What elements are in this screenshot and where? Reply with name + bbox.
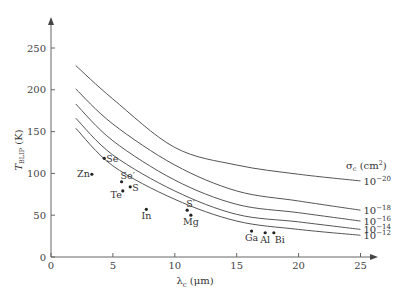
point-label: Al (259, 234, 270, 245)
legend-title-unit: (cm (356, 160, 379, 171)
point-label: Bi (275, 234, 285, 245)
point-label: Zn (77, 168, 90, 179)
y-tick-label: 0 (40, 252, 46, 263)
points: SeZnSe′STeInS′MgGaAlBi (77, 153, 285, 244)
curves (76, 66, 361, 236)
point-label: S (132, 182, 139, 193)
series-line-10^-20 (76, 66, 361, 181)
y-label-unit: (K) (13, 129, 24, 148)
x-tick-label: 25 (354, 260, 367, 271)
series-line-10^-12 (76, 128, 361, 235)
x-tick-label: 20 (292, 260, 305, 271)
point-label: Te (111, 189, 123, 200)
x-tick-label: 5 (110, 260, 116, 271)
y-tick-label: 250 (27, 43, 46, 54)
y-tick-label: 100 (27, 168, 46, 179)
y-axis-label: TBLIP (K) (13, 129, 26, 170)
y-tick-label: 200 (27, 84, 46, 95)
y-tick-label: 150 (27, 126, 46, 137)
series-label-10^-12: 10−12 (364, 229, 392, 241)
x-tick-label: 15 (230, 260, 243, 271)
legend-title: σc (cm2) (346, 159, 387, 173)
series-label-10^-20: 10−20 (364, 175, 392, 187)
point-label: Se′ (121, 170, 135, 181)
x-axis-label: λc (μm) (176, 275, 213, 289)
point-label: Se (106, 153, 119, 164)
x-label-unit: (μm) (187, 275, 214, 286)
x-tick-label: 0 (48, 260, 54, 271)
point-label: In (141, 210, 151, 221)
y-label-sub: BLIP (18, 147, 26, 164)
x-tick-label: 10 (168, 260, 181, 271)
x-axis-arrow (370, 254, 378, 260)
series-line-10^-14 (76, 118, 361, 229)
y-tick-label: 50 (33, 210, 46, 221)
axes (48, 17, 378, 260)
point-Zn (90, 173, 93, 176)
point-label: Ga (245, 232, 259, 243)
x-ticks: 0510152025 (48, 253, 367, 271)
legend: 10−2010−1810−1610−1410−12 (364, 175, 392, 241)
chart: 0510152025 050100150200250 SeZnSe′STeInS… (0, 0, 397, 299)
point-label: Mg (183, 216, 199, 227)
y-axis-arrow (48, 17, 54, 25)
point-label: S′ (186, 198, 195, 209)
legend-title-close: ) (383, 160, 387, 171)
